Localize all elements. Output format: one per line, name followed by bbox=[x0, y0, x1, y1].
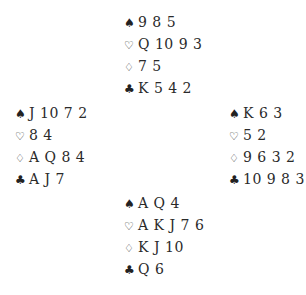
east-hearts-row: ♡5 2 bbox=[229, 124, 305, 146]
north-clubs-cards: K 5 4 2 bbox=[138, 80, 192, 96]
north-hearts-cards: Q 10 9 3 bbox=[138, 36, 202, 52]
spade-icon: ♠ bbox=[124, 193, 136, 215]
diamond-icon: ♢ bbox=[124, 57, 136, 79]
north-spades-row: ♠9 8 5 bbox=[124, 11, 202, 33]
east-hearts-cards: 5 2 bbox=[243, 127, 267, 143]
north-spades-cards: 9 8 5 bbox=[138, 14, 176, 30]
east-hand: ♠K 6 3 ♡5 2 ♢9 6 3 2 ♣10 9 8 3 bbox=[229, 102, 305, 190]
east-clubs-cards: 10 9 8 3 bbox=[243, 171, 305, 187]
east-spades-cards: K 6 3 bbox=[243, 105, 283, 121]
south-spades-cards: A Q 4 bbox=[138, 195, 180, 211]
diamond-icon: ♢ bbox=[15, 148, 27, 170]
south-spades-row: ♠A Q 4 bbox=[124, 192, 204, 214]
club-icon: ♣ bbox=[124, 259, 136, 281]
west-diamonds-cards: A Q 8 4 bbox=[29, 149, 85, 165]
east-clubs-row: ♣10 9 8 3 bbox=[229, 168, 305, 190]
west-hearts-cards: 8 4 bbox=[29, 127, 53, 143]
heart-icon: ♡ bbox=[15, 126, 27, 148]
club-icon: ♣ bbox=[15, 169, 27, 191]
south-hand: ♠A Q 4 ♡A K J 7 6 ♢K J 10 ♣Q 6 bbox=[124, 192, 204, 280]
west-spades-row: ♠J 10 7 2 bbox=[15, 102, 88, 124]
heart-icon: ♡ bbox=[124, 216, 136, 238]
heart-icon: ♡ bbox=[229, 126, 241, 148]
south-hearts-row: ♡A K J 7 6 bbox=[124, 214, 204, 236]
west-spades-cards: J 10 7 2 bbox=[29, 105, 88, 121]
north-diamonds-row: ♢7 5 bbox=[124, 55, 202, 77]
spade-icon: ♠ bbox=[15, 103, 27, 125]
east-diamonds-row: ♢9 6 3 2 bbox=[229, 146, 305, 168]
heart-icon: ♡ bbox=[124, 35, 136, 57]
south-hearts-cards: A K J 7 6 bbox=[138, 217, 204, 233]
diamond-icon: ♢ bbox=[229, 148, 241, 170]
south-diamonds-cards: K J 10 bbox=[138, 239, 184, 255]
south-clubs-cards: Q 6 bbox=[138, 261, 164, 277]
south-diamonds-row: ♢K J 10 bbox=[124, 236, 204, 258]
spade-icon: ♠ bbox=[124, 12, 136, 34]
west-hearts-row: ♡8 4 bbox=[15, 124, 88, 146]
diamond-icon: ♢ bbox=[124, 238, 136, 260]
north-hand: ♠9 8 5 ♡Q 10 9 3 ♢7 5 ♣K 5 4 2 bbox=[124, 11, 202, 99]
west-hand: ♠J 10 7 2 ♡8 4 ♢A Q 8 4 ♣A J 7 bbox=[15, 102, 88, 190]
west-clubs-cards: A J 7 bbox=[29, 171, 65, 187]
east-spades-row: ♠K 6 3 bbox=[229, 102, 305, 124]
south-clubs-row: ♣Q 6 bbox=[124, 258, 204, 280]
north-diamonds-cards: 7 5 bbox=[138, 58, 162, 74]
club-icon: ♣ bbox=[229, 169, 241, 191]
north-clubs-row: ♣K 5 4 2 bbox=[124, 77, 202, 99]
west-diamonds-row: ♢A Q 8 4 bbox=[15, 146, 88, 168]
west-clubs-row: ♣A J 7 bbox=[15, 168, 88, 190]
spade-icon: ♠ bbox=[229, 103, 241, 125]
club-icon: ♣ bbox=[124, 78, 136, 100]
east-diamonds-cards: 9 6 3 2 bbox=[243, 149, 295, 165]
north-hearts-row: ♡Q 10 9 3 bbox=[124, 33, 202, 55]
